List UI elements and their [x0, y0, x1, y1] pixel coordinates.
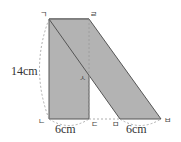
rect-base-measure: 6cm [55, 122, 76, 136]
geometry-figure: ㄱ ㄹ ㄴ ㄷ ㅁ ㅂ ㅅ 14cm 6cm 6cm [0, 0, 181, 142]
para-base-measure: 6cm [126, 122, 147, 136]
height-arc [40, 19, 50, 119]
vertex-label-digeut: ㄷ [91, 120, 98, 129]
vertex-label-giyeok: ㄱ [40, 10, 47, 19]
height-measure: 14cm [11, 64, 38, 78]
vertex-label-mieum: ㅁ [112, 120, 119, 129]
intersection-label-siot: ㅅ [79, 74, 86, 83]
vertex-label-rieul: ㄹ [90, 10, 97, 19]
vertex-label-nieun: ㄴ [38, 117, 45, 126]
vertex-label-bieup: ㅂ [164, 116, 171, 125]
